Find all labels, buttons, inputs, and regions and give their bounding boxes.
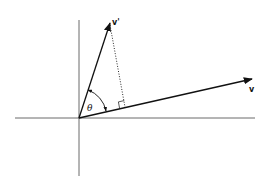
projection-line [110, 25, 125, 107]
vector-v-prime [79, 23, 110, 118]
v-label: v [249, 85, 255, 94]
diagram-canvas: θ v' v [0, 0, 262, 189]
right-angle-marker [118, 101, 124, 109]
v-prime-label: v' [112, 18, 120, 27]
theta-label: θ [87, 103, 93, 113]
vector-v [79, 79, 252, 118]
